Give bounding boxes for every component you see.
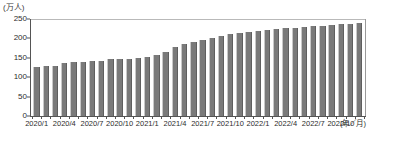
- bar-column: [60, 19, 69, 116]
- bar-column: [180, 19, 189, 116]
- bar: [218, 36, 224, 116]
- bar: [301, 27, 307, 116]
- bar: [80, 62, 86, 116]
- bar: [236, 33, 242, 116]
- bar-column: [161, 19, 170, 116]
- x-axis-tick-label: 2020/1: [25, 120, 48, 128]
- bar-column: [124, 19, 133, 116]
- bar-column: [32, 19, 41, 116]
- bar: [144, 57, 150, 116]
- bar-column: [299, 19, 308, 116]
- bar: [181, 44, 187, 116]
- bar-column: [115, 19, 124, 116]
- bar-column: [272, 19, 281, 116]
- bar-column: [69, 19, 78, 116]
- bar: [172, 47, 178, 116]
- bar: [153, 55, 159, 116]
- bar: [209, 38, 215, 116]
- bar-column: [78, 19, 87, 116]
- x-axis-tick-mark: [272, 116, 273, 119]
- bar-column: [50, 19, 59, 116]
- bar-column: [226, 19, 235, 116]
- bar: [245, 32, 251, 116]
- x-axis-tick-label: 2020/7: [80, 120, 103, 128]
- bar: [116, 59, 122, 116]
- bar: [319, 26, 325, 116]
- bar-column: [244, 19, 253, 116]
- bar-column: [189, 19, 198, 116]
- bar: [33, 67, 39, 116]
- x-axis-tick-mark: [50, 116, 51, 119]
- bar-column: [106, 19, 115, 116]
- x-axis-tick-label: 2022/1: [246, 120, 269, 128]
- x-axis-tick-mark: [299, 116, 300, 119]
- bar: [98, 61, 104, 116]
- bar-column: [133, 19, 142, 116]
- bar: [227, 34, 233, 116]
- bar-column: [198, 19, 207, 116]
- bar-column: [309, 19, 318, 116]
- bar-column: [170, 19, 179, 116]
- bar-column: [327, 19, 336, 116]
- bar-column: [97, 19, 106, 116]
- bar-chart: (万人) 050100150200250 2020/12020/42020/72…: [0, 0, 393, 145]
- bar-column: [318, 19, 327, 116]
- bar: [310, 26, 316, 116]
- bar-column: [262, 19, 271, 116]
- x-axis-tick-labels: 2020/12020/42020/72020/102021/12021/4202…: [0, 120, 393, 142]
- bar: [264, 30, 270, 116]
- bar: [89, 61, 95, 116]
- x-axis-tick-label: 2020/4: [53, 120, 76, 128]
- x-axis-tick-mark: [133, 116, 134, 119]
- x-axis-tick-label: 2021/1: [136, 120, 159, 128]
- x-axis-tick-label: 2020/10: [106, 120, 133, 128]
- bar-column: [235, 19, 244, 116]
- bar: [43, 66, 49, 116]
- x-axis-tick-label: 2022/7: [302, 120, 325, 128]
- bar-column: [143, 19, 152, 116]
- x-axis-tick-mark: [244, 116, 245, 119]
- x-axis-tick-mark: [161, 116, 162, 119]
- bar-column: [345, 19, 354, 116]
- bar: [126, 59, 132, 116]
- bar: [338, 24, 344, 116]
- x-axis-tick-label: 2021/10: [217, 120, 244, 128]
- bar: [107, 59, 113, 116]
- bar-column: [207, 19, 216, 116]
- bar: [162, 52, 168, 116]
- x-axis-tick-mark: [189, 116, 190, 119]
- bar: [199, 40, 205, 116]
- bar-column: [290, 19, 299, 116]
- bar-column: [152, 19, 161, 116]
- bar-column: [281, 19, 290, 116]
- bar-column: [41, 19, 50, 116]
- bar-column: [336, 19, 345, 116]
- bar: [356, 23, 362, 116]
- bar: [347, 24, 353, 116]
- bar: [70, 62, 76, 116]
- bar: [282, 28, 288, 116]
- x-axis-tick-label: 2021/7: [191, 120, 214, 128]
- bar: [190, 42, 196, 117]
- bar-series: [30, 19, 366, 116]
- x-axis-tick-label: 2022/4: [274, 120, 297, 128]
- bar-column: [87, 19, 96, 116]
- bar: [255, 31, 261, 116]
- bar: [328, 25, 334, 116]
- bar: [52, 66, 58, 116]
- bar: [135, 58, 141, 116]
- x-axis-tick-label: 2021/4: [163, 120, 186, 128]
- bar-column: [355, 19, 364, 116]
- x-axis-unit-label: (年／月): [340, 120, 366, 128]
- bar: [292, 28, 298, 116]
- bar-column: [216, 19, 225, 116]
- bar-column: [253, 19, 262, 116]
- y-axis-unit-label: (万人): [3, 1, 24, 12]
- plot-area: 050100150200250: [30, 19, 366, 116]
- bar: [61, 63, 67, 116]
- bar: [273, 29, 279, 116]
- x-axis-tick-mark: [78, 116, 79, 119]
